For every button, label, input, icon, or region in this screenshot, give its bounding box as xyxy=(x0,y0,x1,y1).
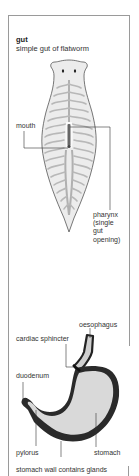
label-duodenum: duodenum xyxy=(16,372,49,380)
label-oesophagus: oesophagus xyxy=(79,321,117,329)
label-stomach-wall: stomach wall contains glands xyxy=(16,466,107,474)
mouth-opening xyxy=(67,145,70,148)
cardiac-sphincter-leader-line xyxy=(66,344,74,367)
label-pylorus: pylorus xyxy=(16,449,39,457)
flatworm-eye-left xyxy=(62,69,64,73)
label-stomach: stomach xyxy=(94,449,120,457)
flatworm-eye-right xyxy=(74,69,76,73)
label-mouth: mouth xyxy=(16,122,35,130)
flatworm-illustration xyxy=(42,60,96,232)
label-pharynx: pharynx (single gut opening) xyxy=(93,211,120,244)
label-cardiac-sphincter: cardiac sphincter xyxy=(16,335,69,343)
